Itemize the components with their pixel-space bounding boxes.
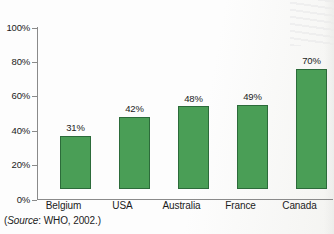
chart-plot-area: 0%20%40%60%80%100% 31%42%48%49%70% Belgi… <box>0 0 334 210</box>
caption-source-word: Source <box>7 215 38 226</box>
y-axis-tick-label-20: 20% <box>0 160 30 170</box>
y-axis-tick-label-60: 60% <box>0 92 30 102</box>
y-axis-tick-label-100: 100% <box>0 23 30 33</box>
bar-chart-figure: 0%20%40%60%80%100% 31%42%48%49%70% Belgi… <box>0 0 334 234</box>
x-axis-category-labels: BelgiumUSAAustraliaFranceCanada <box>37 0 334 215</box>
caption-source-rest: : WHO, 2002.) <box>38 215 101 226</box>
x-axis-category-label: Canada <box>262 201 334 211</box>
source-caption: (Source: WHO, 2002.) <box>4 215 101 226</box>
y-axis-tick-label-40: 40% <box>0 126 30 136</box>
y-axis-tick-label-80: 80% <box>0 57 30 67</box>
y-axis-tick-labels: 0%20%40%60%80%100% <box>0 0 30 210</box>
